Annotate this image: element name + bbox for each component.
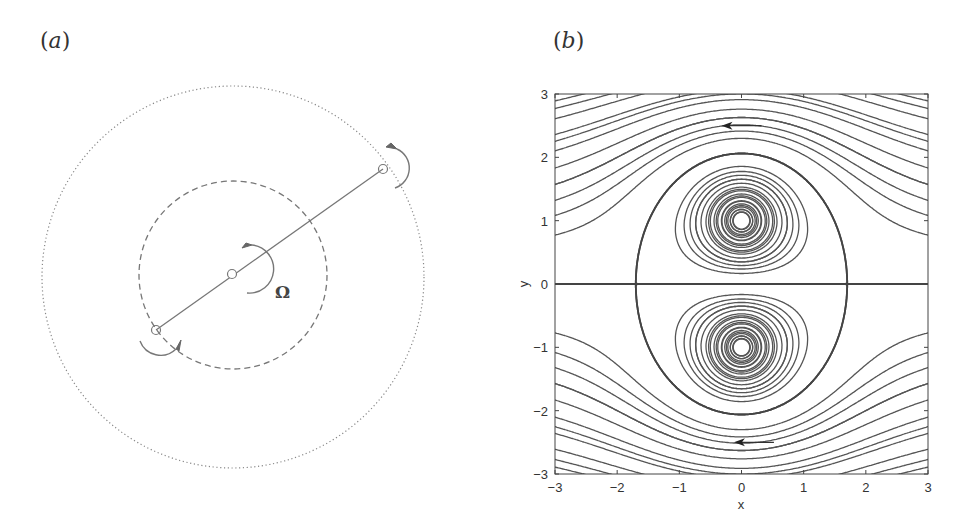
x-axis-label: x [738,497,745,512]
omega-label: Ω [275,282,290,302]
y-tick-label: 1 [541,214,548,229]
x-tick-label: 3 [924,480,931,495]
y-tick-label: −3 [533,467,548,482]
streamline [552,179,931,450]
streamline [552,179,931,450]
panel-a-diagram: Ω [42,86,424,468]
y-tick-label: 2 [541,150,548,165]
rotation-arc-outer [395,149,409,188]
x-tick-label: −1 [672,480,687,495]
center-vortex-marker [228,270,237,279]
streamline [552,125,931,393]
rotation-arc-center [247,245,274,293]
streamline [733,339,750,356]
panel-b-plot: −3−2−10123 −3−2−10123 x y [516,87,932,512]
x-tick-labels: −3−2−10123 [548,480,932,495]
x-tick-label: −2 [610,480,625,495]
connecting-rod-line [156,169,383,330]
y-axis-label: y [516,280,531,287]
rotation-arrowhead-inner-icon [176,340,181,351]
streamline [733,212,750,229]
x-tick-label: 1 [800,480,807,495]
streamline [552,118,931,389]
y-tick-labels: −3−2−10123 [533,87,548,482]
streamline [552,118,931,389]
x-tick-label: 2 [862,480,869,495]
streamline [728,207,755,235]
rotation-arrowhead-outer-icon [386,143,397,149]
streamline [728,334,755,362]
y-tick-label: 3 [541,87,548,102]
figure-canvas: Ω −3−2−10123 −3−2−10123 x y [0,0,968,526]
streamlines-group [552,91,931,477]
y-tick-label: −2 [533,404,548,419]
x-tick-label: 0 [738,480,745,495]
rotation-arc-inner [140,341,176,355]
y-tick-label: −1 [533,340,548,355]
x-tick-label: −3 [548,480,563,495]
rotation-arrowhead-center-icon [242,243,252,248]
y-tick-label: 0 [541,277,548,292]
